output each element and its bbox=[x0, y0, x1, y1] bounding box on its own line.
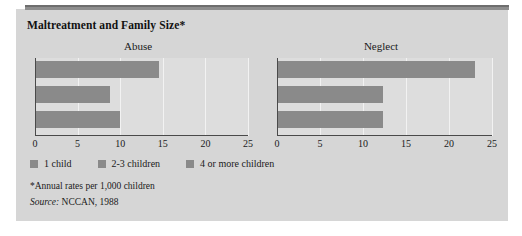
legend-label: 2-3 children bbox=[112, 158, 161, 169]
legend-item-0: 1 child bbox=[30, 158, 72, 169]
legend-swatch-icon bbox=[186, 160, 194, 168]
chart-neglect-y-axis bbox=[277, 58, 278, 136]
legend-swatch-icon bbox=[30, 160, 38, 168]
bar-abuse-0 bbox=[35, 61, 159, 78]
tick-label: 0 bbox=[275, 138, 280, 149]
chart-abuse-plot bbox=[28, 58, 248, 136]
bar-neglect-1 bbox=[277, 86, 383, 103]
chart-abuse-x-axis bbox=[35, 135, 248, 136]
legend-label: 4 or more children bbox=[200, 158, 274, 169]
chart-neglect-plot bbox=[270, 58, 492, 136]
gridline bbox=[163, 58, 164, 136]
chart-neglect-x-axis bbox=[277, 135, 492, 136]
bar-neglect-2 bbox=[277, 111, 383, 128]
tick-label: 0 bbox=[33, 138, 38, 149]
chart-legend: 1 child2-3 children4 or more children bbox=[30, 158, 300, 169]
chart-neglect: Neglect 0510152025 bbox=[270, 40, 492, 150]
bar-neglect-0 bbox=[277, 61, 475, 78]
tick-label: 25 bbox=[243, 138, 253, 149]
chart-abuse: Abuse 0510152025 bbox=[28, 40, 248, 150]
gridline bbox=[205, 58, 206, 136]
tick-label: 15 bbox=[401, 138, 411, 149]
legend-swatch-icon bbox=[98, 160, 106, 168]
chart-neglect-tick-labels: 0510152025 bbox=[270, 138, 492, 152]
figure-title: Maltreatment and Family Size* bbox=[27, 19, 185, 31]
tick-label: 15 bbox=[158, 138, 168, 149]
tick-label: 25 bbox=[487, 138, 497, 149]
figure-footnote: *Annual rates per 1,000 children bbox=[30, 181, 155, 191]
top-rule-divider bbox=[25, 5, 509, 10]
tick-label: 5 bbox=[75, 138, 80, 149]
bar-abuse-1 bbox=[35, 86, 110, 103]
figure-container: Maltreatment and Family Size* Abuse 0510… bbox=[0, 0, 522, 236]
tick-label: 10 bbox=[358, 138, 368, 149]
legend-item-1: 2-3 children bbox=[98, 158, 161, 169]
tick-label: 5 bbox=[318, 138, 323, 149]
source-label: Source: bbox=[30, 197, 59, 207]
bar-abuse-2 bbox=[35, 111, 120, 128]
legend-item-2: 4 or more children bbox=[186, 158, 274, 169]
chart-abuse-tick-labels: 0510152025 bbox=[28, 138, 248, 152]
tick-label: 10 bbox=[115, 138, 125, 149]
legend-label: 1 child bbox=[44, 158, 72, 169]
figure-source: Source: NCCAN, 1988 bbox=[30, 197, 119, 207]
tick-label: 20 bbox=[444, 138, 454, 149]
tick-label: 20 bbox=[200, 138, 210, 149]
gridline bbox=[248, 58, 249, 136]
chart-neglect-title: Neglect bbox=[270, 40, 492, 52]
gridline bbox=[492, 58, 493, 136]
chart-abuse-y-axis bbox=[35, 58, 36, 136]
chart-abuse-title: Abuse bbox=[28, 40, 248, 52]
source-value: NCCAN, 1988 bbox=[59, 197, 118, 207]
